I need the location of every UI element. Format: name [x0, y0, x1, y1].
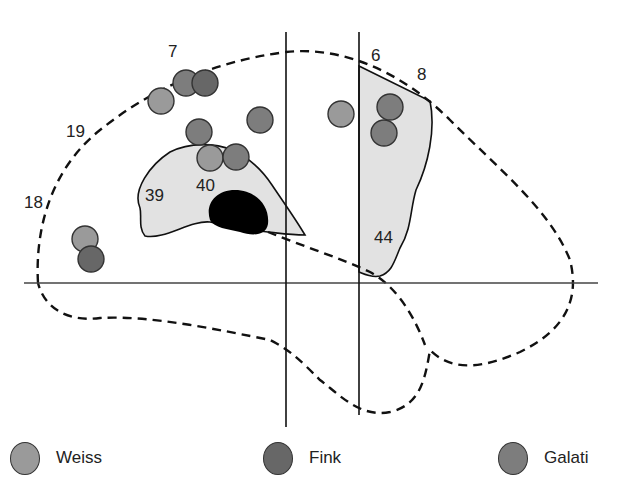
region-label-19: 19 [66, 122, 85, 141]
weiss-swatch-icon [10, 442, 40, 475]
legend-item-galati: Galati [498, 432, 588, 484]
brain-diagram: 7681918394044 [0, 0, 619, 432]
region-label-39: 39 [145, 186, 164, 205]
activation-galati [186, 119, 212, 145]
region-label-44: 44 [374, 228, 393, 247]
galati-swatch-icon [498, 442, 528, 475]
activation-weiss [148, 88, 174, 114]
sylvian-connector [268, 232, 425, 345]
legend: Weiss Fink Galati [0, 432, 619, 484]
fink-swatch-icon [263, 442, 293, 475]
activation-galati [371, 120, 397, 146]
legend-item-fink: Fink [263, 432, 341, 484]
activation-fink [192, 70, 218, 96]
legend-label-fink: Fink [309, 448, 341, 468]
legend-item-weiss: Weiss [10, 432, 102, 484]
activation-weiss [197, 145, 223, 171]
activation-galati [247, 107, 273, 133]
brain-outline [38, 51, 573, 413]
region-label-6: 6 [371, 46, 380, 65]
legend-label-galati: Galati [544, 448, 588, 468]
region-label-8: 8 [417, 65, 426, 84]
activation-fink [78, 246, 104, 272]
region-label-40: 40 [196, 176, 215, 195]
activation-weiss [328, 101, 354, 127]
region-label-18: 18 [24, 193, 43, 212]
activation-galati [377, 94, 403, 120]
region-label-7: 7 [168, 42, 177, 61]
activation-galati [223, 144, 249, 170]
legend-label-weiss: Weiss [56, 448, 102, 468]
